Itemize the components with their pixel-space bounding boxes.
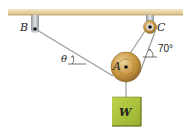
angle-theta-marker xyxy=(68,56,86,64)
angle-70-marker xyxy=(143,49,157,57)
label-w: W xyxy=(119,106,133,119)
label-theta: θ xyxy=(61,53,67,64)
label-b: B xyxy=(19,21,28,34)
label-c: C xyxy=(157,21,166,34)
support-c xyxy=(144,15,157,34)
label-70-deg: 70° xyxy=(158,43,173,54)
ceiling-beam xyxy=(8,9,183,15)
pulley-diagram: B C A W θ 70° xyxy=(0,0,189,138)
label-a: A xyxy=(112,60,121,73)
